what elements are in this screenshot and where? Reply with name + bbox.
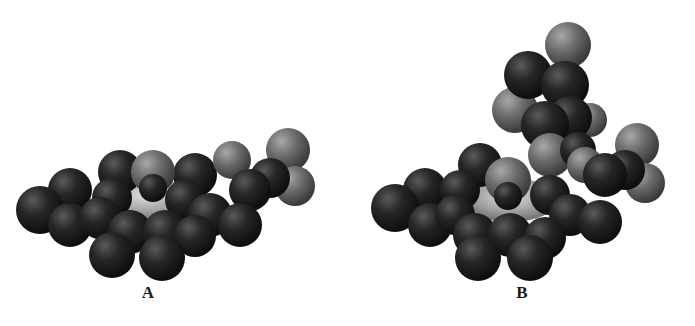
molecule-a-model [16,128,315,281]
carbon-sphere [455,235,501,281]
carbon-sphere [494,182,522,210]
carbon-sphere [507,235,553,281]
carbon-sphere [218,203,262,247]
carbon-sphere [89,232,135,278]
carbon-sphere [139,235,185,281]
carbon-sphere [578,200,622,244]
panel-label-a: A [133,283,163,303]
carbon-sphere [583,153,627,197]
molecular-models-figure: A B [0,0,695,326]
panel-label-b: B [507,283,537,303]
heteroatom-sphere [545,22,591,68]
molecules-canvas [0,0,695,326]
molecule-b-model [371,22,665,281]
carbon-sphere [139,174,167,202]
